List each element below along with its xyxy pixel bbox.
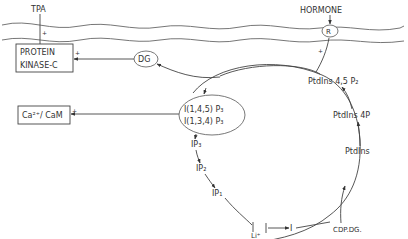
cycle-to-dg-arrow	[157, 64, 220, 78]
ip3-to-ip2-arrow	[196, 150, 200, 163]
ptdins-45p2-label: PtdIns 4,5 P₂	[308, 77, 358, 86]
ip3-isomer-2: I(1,3,4) P₃	[184, 117, 224, 126]
ip2-to-ip1-arrow	[205, 174, 215, 188]
receptor-to-cycle-line	[316, 38, 329, 72]
tpa-label: TPA	[30, 5, 46, 14]
ip3-label: IP₃	[191, 140, 201, 149]
calcium-label: Ca²⁺/ CaM	[22, 111, 63, 120]
pkc-plus-sign: +	[75, 49, 80, 56]
ptdins-4p-label: PtdIns 4P	[333, 111, 370, 120]
hormone-plus-sign: +	[318, 47, 323, 54]
ip2-label: IP₂	[196, 164, 206, 173]
receptor-ellipse: R	[322, 25, 338, 37]
pi-cycle-diagram: TPA + PROTEIN KINASE-C + DG HORMONE R + …	[0, 0, 408, 239]
ptdins-to-4p-arrow	[358, 122, 360, 146]
receptor-label: R	[326, 28, 331, 36]
tpa-plus-sign: +	[42, 29, 47, 36]
ip3-isomer-1: I(1,4,5) P₃	[184, 105, 224, 114]
dg-ellipse: DG	[134, 51, 158, 67]
cdp-dg-label: CDP.DG.	[333, 226, 362, 234]
ptdins4p-to-45p2-arrow	[342, 87, 352, 109]
protein-kinase-c-box: PROTEIN KINASE-C	[16, 44, 73, 72]
inositol-to-cycle-line	[296, 222, 330, 228]
isomers-to-ip3-arrow	[195, 134, 196, 139]
pkc-line2: KINASE-C	[20, 61, 58, 70]
pkc-line1: PROTEIN	[20, 48, 55, 57]
cycle-top-arc	[220, 66, 320, 76]
cell-membrane	[2, 23, 404, 43]
cdp-dg-arrow	[341, 186, 345, 223]
hormone-label: HORMONE	[300, 6, 342, 15]
inositol-label: I	[290, 224, 292, 233]
calcium-plus-sign: +	[72, 107, 77, 114]
ip1-to-inositol-line	[225, 198, 252, 225]
calcium-calmodulin-box: Ca²⁺/ CaM	[18, 106, 70, 124]
lithium-label: Li⁺	[251, 232, 261, 239]
ip3-isomers-ellipse: I(1,4,5) P₃ I(1,3,4) P₃	[179, 95, 245, 135]
cycle-to-isomers-arrow	[204, 88, 206, 94]
ip1-label: IP₁	[212, 189, 222, 198]
ptdins-label: PtdIns	[345, 147, 370, 156]
dg-label: DG	[138, 55, 150, 64]
